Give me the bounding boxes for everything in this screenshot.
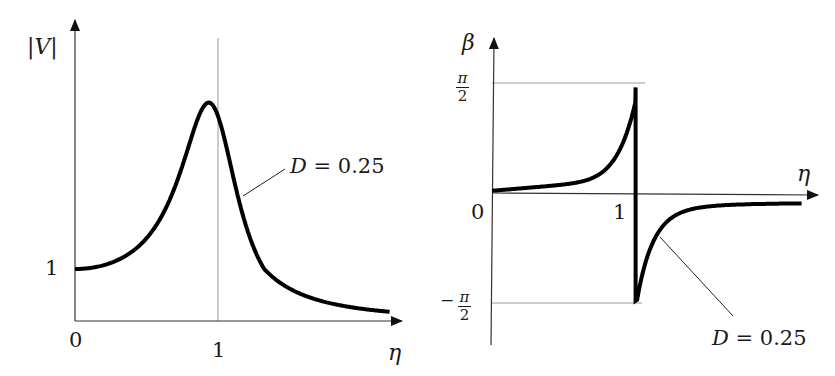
right-y-tick-pi-half: π2 — [456, 71, 469, 104]
right-annotation-value: = 0.25 — [736, 326, 807, 350]
right-x-axis-label: η — [797, 163, 810, 185]
left-annotation-leader — [243, 169, 285, 196]
right-x-axis — [492, 193, 818, 195]
right-annotation-leader — [660, 237, 733, 316]
left-magnitude-curve — [75, 103, 390, 312]
left-annotation-value: = 0.25 — [314, 154, 385, 178]
right-y-tick-minus-pi-half: π2 — [458, 290, 471, 323]
right-annotation-symbol: D — [712, 326, 729, 350]
right-phase-plot — [491, 38, 818, 345]
right-x-tick-1: 1 — [613, 202, 626, 223]
right-annotation: D = 0.25 — [712, 328, 807, 349]
left-x-axis-label: η — [388, 342, 401, 364]
left-y-tick-1: 1 — [45, 258, 58, 279]
left-y-axis-label: |V| — [27, 36, 58, 58]
left-x-tick-1: 1 — [212, 340, 225, 361]
right-y-axis-label: β — [462, 32, 475, 54]
figure-canvas — [0, 0, 835, 376]
left-annotation: D = 0.25 — [290, 156, 385, 177]
right-y-tick-minus-sign: − — [440, 292, 454, 309]
left-x-tick-0: 0 — [69, 330, 82, 351]
left-annotation-symbol: D — [290, 154, 307, 178]
right-zero-label: 0 — [471, 202, 484, 223]
